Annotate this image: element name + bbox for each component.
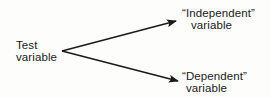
- arrow-to-dependent: [62, 51, 178, 81]
- arrow-to-independent: [62, 21, 176, 51]
- dependent-variable-line2: variable: [182, 82, 247, 94]
- test-variable-label: Test variable: [16, 39, 57, 63]
- independent-variable-label: “Independent” variable: [182, 7, 255, 31]
- independent-variable-line1: “Independent”: [182, 7, 255, 19]
- test-variable-line2: variable: [16, 51, 57, 63]
- dependent-variable-label: “Dependent” variable: [182, 70, 247, 94]
- diagram-canvas: Test variable “Independent” variable “De…: [0, 0, 271, 98]
- dependent-variable-line1: “Dependent”: [182, 70, 247, 82]
- test-variable-line1: Test: [16, 39, 57, 51]
- independent-variable-line2: variable: [182, 19, 255, 31]
